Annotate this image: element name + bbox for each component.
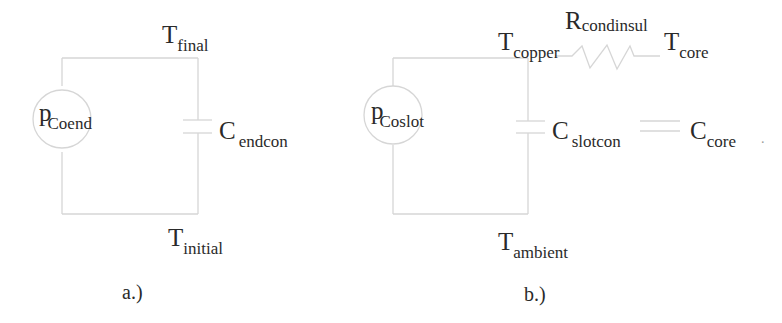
label-main: C — [690, 117, 707, 144]
label-main: C — [219, 117, 236, 144]
resistor-zigzag — [555, 45, 660, 69]
label-main: R — [565, 7, 582, 34]
label-c-slotcon: Cslotcon — [552, 118, 618, 143]
label-main: T — [664, 28, 679, 55]
label-c-core: Ccore — [690, 118, 736, 143]
label-sub: core — [707, 132, 736, 151]
diagram-a-wires — [33, 58, 212, 214]
trailing-dot: . — [761, 132, 765, 146]
label-main: T — [498, 28, 513, 55]
label-sub: core — [679, 43, 708, 62]
label-sub: Coslot — [380, 112, 424, 131]
label-sub: slotcon — [572, 132, 621, 151]
label-p-coend: pCoend — [39, 100, 96, 125]
label-r-condinsul: Rcondinsul — [565, 8, 648, 33]
label-sub: Coend — [48, 114, 92, 133]
label-sub: final — [177, 36, 208, 55]
label-t-ambient: Tambient — [498, 229, 568, 254]
label-sub: initial — [183, 239, 223, 258]
label-main: T — [498, 228, 513, 255]
label-sub: condinsul — [582, 16, 648, 35]
label-sub: copper — [513, 43, 559, 62]
label-c-endcon: Cendcon — [219, 118, 285, 143]
label-main: T — [168, 224, 183, 251]
label-main: T — [162, 21, 177, 48]
label-t-copper: Tcopper — [498, 29, 560, 54]
label-sub: ambient — [513, 243, 568, 262]
caption-a: a.) — [122, 282, 143, 302]
label-t-initial: Tinitial — [168, 225, 223, 250]
label-t-core: Tcore — [664, 29, 709, 54]
label-sub: endcon — [239, 132, 288, 151]
label-p-coslot: pCoslot — [371, 98, 428, 123]
caption-b: b.) — [524, 284, 546, 304]
label-main: C — [552, 117, 569, 144]
label-t-final: Tfinal — [162, 22, 208, 47]
